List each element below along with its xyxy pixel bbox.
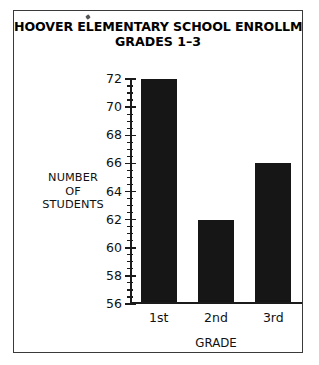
y-tick-minor bbox=[127, 205, 133, 206]
y-tick-minor bbox=[127, 149, 133, 150]
y-tick-label: 64 bbox=[106, 185, 122, 198]
y-tick-minor bbox=[127, 289, 133, 290]
y-tick-major bbox=[125, 78, 136, 80]
y-tick-minor bbox=[127, 156, 133, 157]
chart-figure: HOOVER ELEMENTARY SCHOOL ENROLLMENT GRAD… bbox=[13, 10, 303, 353]
bar-1st: 1st bbox=[141, 79, 177, 302]
y-axis-label: NUMBER OF STUDENTS bbox=[31, 171, 115, 212]
x-tick-label: 1st bbox=[141, 310, 177, 325]
y-tick-minor bbox=[127, 268, 133, 269]
plot-area: 727068666462605856 1st2nd3rd bbox=[130, 79, 302, 304]
y-tick-major bbox=[125, 163, 136, 165]
x-axis-line bbox=[130, 302, 302, 304]
y-axis-label-line-3: STUDENTS bbox=[31, 198, 115, 212]
y-tick-minor bbox=[127, 177, 133, 178]
y-axis-label-line-1: NUMBER bbox=[31, 171, 115, 185]
y-tick-label: 72 bbox=[106, 73, 122, 86]
y-tick-label: 66 bbox=[106, 157, 122, 170]
y-tick-minor bbox=[127, 114, 133, 115]
y-tick-major bbox=[125, 191, 136, 193]
bar-3rd: 3rd bbox=[255, 163, 291, 302]
y-tick-minor bbox=[127, 121, 133, 122]
y-tick-minor bbox=[127, 99, 133, 100]
y-tick-label: 56 bbox=[106, 298, 122, 311]
chart-subtitle: GRADES 1–3 bbox=[14, 34, 302, 50]
y-tick-minor bbox=[127, 184, 133, 185]
y-tick-minor bbox=[127, 226, 133, 227]
y-tick-label: 70 bbox=[106, 101, 122, 114]
y-tick-minor bbox=[127, 128, 133, 129]
y-tick-label: 60 bbox=[106, 242, 122, 255]
y-tick-major bbox=[125, 106, 136, 108]
y-tick-major bbox=[125, 275, 136, 277]
chart-title: HOOVER ELEMENTARY SCHOOL ENROLLMENT bbox=[14, 19, 302, 34]
y-tick-major bbox=[125, 247, 136, 249]
y-tick-minor bbox=[127, 233, 133, 234]
y-tick-minor bbox=[127, 142, 133, 143]
y-tick-label: 68 bbox=[106, 129, 122, 142]
x-axis-label: GRADE bbox=[130, 336, 302, 350]
y-tick-minor bbox=[127, 92, 133, 93]
x-tick-label: 3rd bbox=[255, 310, 291, 325]
y-tick-label: 58 bbox=[106, 270, 122, 283]
y-tick-major bbox=[125, 135, 136, 137]
y-tick-minor bbox=[127, 85, 133, 86]
bar-2nd: 2nd bbox=[198, 220, 234, 303]
y-tick-major bbox=[125, 303, 136, 305]
y-tick-label: 62 bbox=[106, 213, 122, 226]
x-tick-label: 2nd bbox=[198, 310, 234, 325]
y-tick-minor bbox=[127, 261, 133, 262]
y-tick-minor bbox=[127, 170, 133, 171]
y-tick-minor bbox=[127, 198, 133, 199]
y-tick-minor bbox=[127, 254, 133, 255]
chart-title-block: HOOVER ELEMENTARY SCHOOL ENROLLMENT GRAD… bbox=[14, 19, 302, 50]
y-tick-minor bbox=[127, 296, 133, 297]
y-tick-minor bbox=[127, 212, 133, 213]
y-tick-minor bbox=[127, 282, 133, 283]
y-tick-minor bbox=[127, 240, 133, 241]
y-axis-label-line-2: OF bbox=[31, 185, 115, 199]
y-tick-major bbox=[125, 219, 136, 221]
